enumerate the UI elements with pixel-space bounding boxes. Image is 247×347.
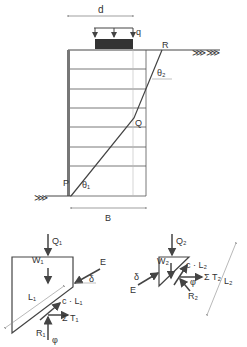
label-sumT1: Σ T₁ (62, 313, 79, 323)
label-cL2: c · L₂ (186, 260, 208, 270)
base-hatch-icon: ⋙ (34, 192, 48, 203)
label-W2: W₂ (157, 256, 169, 266)
label-d: d (98, 4, 104, 15)
label-delta-left: δ (89, 274, 94, 284)
ground-hatch-icon: ⋙⋙ (192, 47, 220, 58)
wedge-1-freebody: Q₁ W₁ E δ L₁ c · L₁ Σ T₁ R₁ φ (5, 234, 106, 345)
wedge-2-freebody: Q₂ W₂ c · L₂ Σ T₂ δ E φ R₂ L₂ (130, 234, 236, 315)
label-Q1: Q₁ (52, 236, 62, 246)
label-P: P (63, 178, 69, 188)
label-R1: R₁ (36, 328, 46, 338)
label-E-left: E (100, 257, 106, 267)
label-delta-right: δ (134, 272, 139, 282)
wall-facing (67, 50, 70, 196)
label-L1: L₁ (28, 292, 36, 302)
label-phi-left: φ (52, 335, 58, 345)
label-sumT2: Σ T₂ (204, 272, 222, 282)
diagram-canvas: d q ⋙⋙ R θ₂ Q P θ₁ (0, 0, 247, 347)
load-block (95, 39, 133, 49)
label-R: R (162, 40, 169, 50)
label-cL1: c · L₁ (62, 296, 83, 306)
label-theta2: θ₂ (157, 68, 166, 78)
label-q: q (136, 27, 141, 37)
label-R2: R₂ (188, 291, 198, 301)
label-L2: L₂ (224, 276, 233, 286)
label-W1: W₁ (32, 255, 44, 265)
failure-surface (71, 50, 162, 196)
label-B: B (105, 213, 111, 223)
label-E-right: E (130, 285, 136, 295)
label-Q: Q (135, 118, 142, 128)
label-phi-right: φ (190, 277, 196, 287)
wall-section: d q ⋙⋙ R θ₂ Q P θ₁ (34, 4, 220, 223)
label-theta1: θ₁ (82, 180, 90, 190)
label-Q2: Q₂ (176, 236, 187, 246)
